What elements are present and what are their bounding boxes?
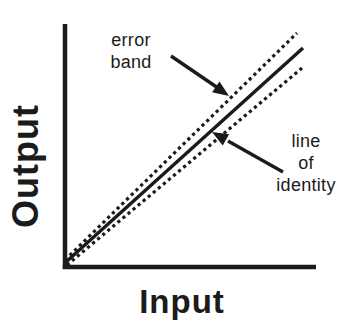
y-axis-label: Output xyxy=(5,86,47,246)
error-band-label-line-1: error xyxy=(91,29,171,51)
x-axis-label: Input xyxy=(100,283,264,321)
line-of-identity-label: line of identity xyxy=(266,130,346,196)
line-of-identity-label-line-2: of xyxy=(266,152,346,174)
line-of-identity-label-line-3: identity xyxy=(266,174,346,196)
line-of-identity-label-line-1: line xyxy=(266,130,346,152)
error-band-arrow xyxy=(171,56,229,96)
error-band-label-line-2: band xyxy=(91,51,171,73)
error-band-label: error band xyxy=(91,29,171,73)
figure: Output Input error band line of identity xyxy=(0,0,350,333)
